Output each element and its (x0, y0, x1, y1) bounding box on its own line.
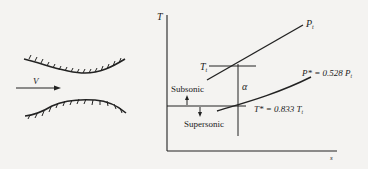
diagram-canvas: V T s Tt Pt (0, 0, 368, 169)
critical-temp-label: T* = 0.833 Tt (254, 104, 304, 115)
stagnation-pressure-isobar (207, 25, 303, 80)
subsonic-arrow (185, 95, 189, 105)
ts-axes (167, 15, 337, 151)
subsonic-label: Subsonic (171, 84, 204, 94)
stagnation-temp-label: Tt (200, 61, 208, 73)
velocity-arrow: V (16, 76, 61, 91)
nozzle-upper-wall (24, 55, 125, 73)
supersonic-label: Supersonic (184, 119, 224, 129)
stagnation-pressure-label: Pt (305, 18, 314, 30)
alpha-label: α (242, 81, 248, 92)
x-axis-label: s (330, 154, 333, 162)
nozzle-lower-wall (25, 99, 126, 119)
critical-pressure-label: P* = 0.528 Pt (301, 68, 353, 79)
velocity-label: V (33, 76, 40, 86)
y-axis-label: T (157, 11, 164, 22)
supersonic-arrow (198, 107, 202, 117)
